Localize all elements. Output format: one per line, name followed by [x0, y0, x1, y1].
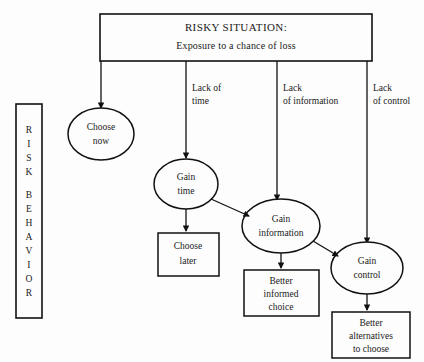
sidebar-letter: O: [25, 274, 32, 284]
risky-situation-subtitle: Exposure to a chance of loss: [176, 40, 296, 51]
box-better-alternatives-label: alternatives: [349, 331, 393, 341]
ellipse-choose-now-label: Choose: [87, 122, 116, 132]
box-choose-later-label: Choose: [174, 241, 203, 251]
ellipse-gain-information: [242, 199, 320, 253]
ellipse-gain-time: [154, 159, 218, 209]
sidebar-letter: R: [26, 125, 33, 135]
risky-situation-title: RISKY SITUATION:: [185, 21, 287, 33]
diagram-canvas: R I S K B E H A V I O R RISKY SITUATION:…: [0, 0, 424, 362]
sidebar-letter: K: [25, 167, 32, 177]
box-better-informed-choice-label: informed: [264, 289, 299, 299]
sidebar-letter: S: [26, 153, 32, 163]
sidebar-letter: I: [27, 139, 30, 149]
box-better-informed-choice-label: choice: [269, 302, 294, 312]
sidebar-letter: H: [25, 218, 32, 228]
box-better-alternatives-label: to choose: [353, 344, 389, 354]
ellipse-gain-control-label: control: [354, 270, 381, 280]
connector-gain-time-to-gain-information: [211, 199, 249, 216]
sidebar-letter: A: [25, 232, 32, 242]
box-better-informed-choice-label: Better: [269, 276, 293, 286]
edge-label-lack-of-control: Lack: [373, 83, 392, 93]
ellipse-gain-control-label: Gain: [358, 256, 377, 266]
sidebar-letter: E: [26, 204, 32, 214]
edge-label-lack-of-control: of control: [373, 96, 411, 106]
connector-gain-information-to-gain-control: [313, 241, 338, 256]
edge-label-lack-of-time: time: [192, 96, 209, 106]
ellipse-gain-information-label: information: [259, 228, 304, 238]
box-choose-later: [158, 233, 219, 276]
sidebar-letter: V: [25, 246, 32, 256]
sidebar-letter: I: [27, 260, 30, 270]
ellipse-gain-time-label: time: [178, 186, 195, 196]
ellipse-gain-time-label: Gain: [177, 172, 196, 182]
edge-label-lack-of-time: Lack of: [192, 83, 222, 93]
sidebar-letter: R: [26, 288, 33, 298]
box-choose-later-label: later: [180, 256, 198, 266]
ellipse-choose-now: [68, 108, 134, 160]
sidebar-letter: B: [26, 190, 33, 200]
box-better-alternatives-label: Better: [359, 318, 383, 328]
ellipse-gain-control: [331, 242, 403, 294]
risk-behavior-diagram: R I S K B E H A V I O R RISKY SITUATION:…: [0, 0, 424, 362]
edge-label-lack-of-information: of information: [283, 96, 338, 106]
ellipse-gain-information-label: Gain: [272, 214, 291, 224]
edge-label-lack-of-information: Lack: [283, 83, 302, 93]
ellipse-choose-now-label: now: [93, 136, 110, 146]
